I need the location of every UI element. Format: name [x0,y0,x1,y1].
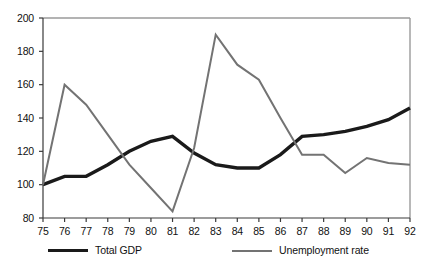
x-tick-label-80: 80 [140,226,162,237]
legend-item-total-gdp: Total GDP [48,245,142,256]
x-tick-label-91: 91 [377,226,399,237]
y-tick-label-160: 160 [8,79,34,90]
y-tick-label-100: 100 [8,179,34,190]
x-tick-label-82: 82 [183,226,205,237]
x-tick-label-84: 84 [226,226,248,237]
x-tick-label-92: 92 [399,226,421,237]
y-tick-label-140: 140 [8,113,34,124]
x-tick-label-81: 81 [162,226,184,237]
line-chart: 20018016014012010080 7576777879808182838… [0,0,426,270]
x-tick-label-79: 79 [118,226,140,237]
x-tick-label-90: 90 [356,226,378,237]
legend-swatch-unemployment-rate [232,250,272,252]
x-tick-label-85: 85 [248,226,270,237]
x-tick-label-89: 89 [334,226,356,237]
x-tick-label-87: 87 [291,226,313,237]
x-tick-label-75: 75 [32,226,54,237]
chart-legend: Total GDP Unemployment rate [0,243,426,265]
data-series-group [43,35,410,212]
y-tick-label-200: 200 [8,13,34,24]
x-tick-label-77: 77 [75,226,97,237]
x-tick-label-78: 78 [97,226,119,237]
y-tick-label-180: 180 [8,46,34,57]
legend-label-unemployment-rate: Unemployment rate [279,245,369,256]
x-tick-label-76: 76 [54,226,76,237]
x-tick-label-83: 83 [205,226,227,237]
x-tick-label-86: 86 [269,226,291,237]
legend-label-total-gdp: Total GDP [95,245,142,256]
y-tick-label-120: 120 [8,146,34,157]
legend-item-unemployment-rate: Unemployment rate [232,245,369,256]
x-tick-label-88: 88 [313,226,335,237]
legend-swatch-total-gdp [48,249,88,252]
y-tick-label-80: 80 [8,213,34,224]
